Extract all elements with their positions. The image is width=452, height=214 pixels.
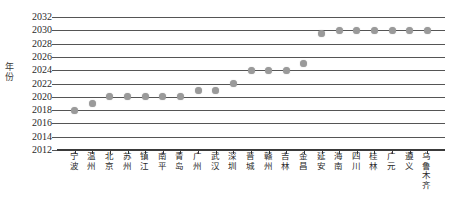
- x-tick-label: 武汉: [211, 152, 222, 171]
- gridline: [57, 123, 445, 124]
- data-point[interactable]: [283, 67, 290, 74]
- gridline: [57, 97, 445, 98]
- x-tick-label: 北京: [105, 152, 116, 171]
- x-tick-label: 广元: [387, 152, 398, 171]
- y-tick-mark: [52, 30, 57, 31]
- x-tick-label: 海南: [334, 152, 345, 171]
- y-tick-mark: [52, 97, 57, 98]
- y-tick-mark: [52, 70, 57, 71]
- gridline: [57, 30, 445, 31]
- y-tick-mark: [52, 110, 57, 111]
- y-tick-mark: [52, 84, 57, 85]
- data-point[interactable]: [142, 93, 149, 100]
- data-point[interactable]: [336, 27, 343, 34]
- x-tick-label: 乌鲁木齐: [422, 152, 433, 190]
- gridline: [57, 57, 445, 58]
- y-tick-label: 2012: [18, 145, 52, 155]
- y-axis-tick-labels: 2032203020282026202420222020201820162014…: [14, 0, 52, 214]
- data-point[interactable]: [389, 27, 396, 34]
- y-tick-mark: [52, 57, 57, 58]
- data-point[interactable]: [424, 27, 431, 34]
- data-point[interactable]: [300, 60, 307, 67]
- data-point[interactable]: [353, 27, 360, 34]
- data-point[interactable]: [195, 87, 202, 94]
- x-tick-label: 苏州: [123, 152, 134, 171]
- x-tick-label: 镇江: [140, 152, 151, 171]
- data-point[interactable]: [159, 93, 166, 100]
- y-tick-mark: [52, 44, 57, 45]
- y-tick-mark: [52, 17, 57, 18]
- x-tick-label: 温州: [87, 152, 98, 171]
- x-axis-tick-labels: 宁波温州北京苏州镇江南平青岛广州武汉深圳晋城赣州吉林金昌延安海南四川桂林广元遵义…: [57, 152, 445, 214]
- y-tick-label: 2024: [18, 65, 52, 75]
- data-point[interactable]: [212, 87, 219, 94]
- x-tick-label: 深圳: [228, 152, 239, 171]
- y-tick-label: 2014: [18, 132, 52, 142]
- y-tick-label: 2018: [18, 105, 52, 115]
- x-tick-label: 四川: [352, 152, 363, 171]
- data-point[interactable]: [106, 93, 113, 100]
- scatter-chart: 年份 2032203020282026202420222020201820162…: [0, 0, 452, 214]
- y-tick-label: 2028: [18, 39, 52, 49]
- y-tick-label: 2030: [18, 25, 52, 35]
- y-tick-mark: [52, 150, 57, 151]
- x-tick-label: 金昌: [299, 152, 310, 171]
- gridline: [57, 84, 445, 85]
- plot-area: [57, 17, 445, 150]
- y-tick-mark: [52, 137, 57, 138]
- gridline: [57, 17, 445, 18]
- x-tick-label: 广州: [193, 152, 204, 171]
- data-point[interactable]: [177, 93, 184, 100]
- x-tick-label: 宁波: [70, 152, 81, 171]
- y-tick-label: 2022: [18, 79, 52, 89]
- x-tick-label: 吉林: [281, 152, 292, 171]
- y-tick-mark: [52, 123, 57, 124]
- x-tick-label: 南平: [158, 152, 169, 171]
- data-point[interactable]: [406, 27, 413, 34]
- data-point[interactable]: [230, 80, 237, 87]
- data-point[interactable]: [371, 27, 378, 34]
- data-point[interactable]: [265, 67, 272, 74]
- data-point[interactable]: [71, 107, 78, 114]
- data-point[interactable]: [124, 93, 131, 100]
- x-tick-label: 遵义: [405, 152, 416, 171]
- gridline: [57, 44, 445, 45]
- x-tick-label: 青岛: [175, 152, 186, 171]
- data-point[interactable]: [89, 100, 96, 107]
- y-tick-label: 2020: [18, 92, 52, 102]
- y-tick-label: 2032: [18, 12, 52, 22]
- x-tick-label: 延安: [317, 152, 328, 171]
- gridline: [57, 110, 445, 111]
- x-tick-label: 赣州: [264, 152, 275, 171]
- y-tick-label: 2016: [18, 118, 52, 128]
- data-point[interactable]: [318, 30, 325, 37]
- x-tick-label: 桂林: [369, 152, 380, 171]
- y-tick-label: 2026: [18, 52, 52, 62]
- gridline: [57, 137, 445, 138]
- x-tick-label: 晋城: [246, 152, 257, 171]
- data-point[interactable]: [248, 67, 255, 74]
